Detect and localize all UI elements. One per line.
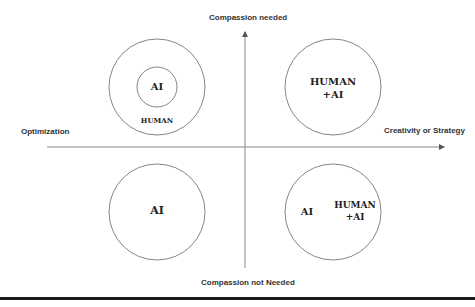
top-left-outer-label: HUMAN <box>137 117 177 125</box>
quadrant-diagram <box>0 0 475 307</box>
bottom-right-ai-label: AI <box>297 206 317 218</box>
axis-label-right: Creativity or Strategy <box>384 126 465 135</box>
axis-label-bottom: Compassion not Needed <box>201 278 295 287</box>
bottom-divider <box>0 297 475 300</box>
axis-label-top: Compassion needed <box>209 13 287 22</box>
top-left-inner-label: AI <box>147 81 167 93</box>
bottom-left-label: AI <box>142 205 172 218</box>
bottom-right-label-2: +AI <box>330 212 380 222</box>
axis-label-left: Optimization <box>21 127 69 136</box>
top-right-label-2: +AI <box>303 89 363 101</box>
top-right-label-1: HUMAN <box>303 76 363 88</box>
bottom-right-label-1: HUMAN <box>330 200 380 210</box>
